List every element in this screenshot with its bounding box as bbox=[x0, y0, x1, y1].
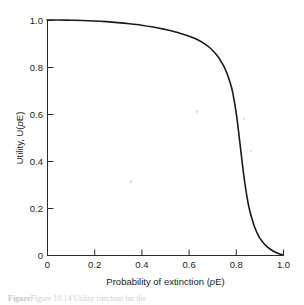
y-axis-ticks bbox=[48, 21, 54, 256]
x-tick-label: 0.8 bbox=[230, 259, 243, 270]
y-tick-label: 0.4 bbox=[30, 156, 43, 167]
utility-curve-chart: 0 0.2 0.4 0.6 0.8 1.0 0 0.2 0.4 0.6 0.8 … bbox=[0, 0, 304, 305]
x-axis-title-pre: Probability of extinction ( bbox=[106, 276, 210, 287]
x-tick-label: 0 bbox=[45, 259, 50, 270]
x-tick-label: 1.0 bbox=[277, 259, 290, 270]
y-tick-label: 0 bbox=[38, 250, 43, 261]
x-axis-title: Probability of extinction (pE) bbox=[106, 276, 224, 287]
y-tick-label: 0.8 bbox=[30, 62, 43, 73]
x-tick-label: 0.2 bbox=[88, 259, 101, 270]
figure-caption-text: Figure 10.14 Utility function for the bbox=[31, 294, 147, 303]
scan-speck bbox=[130, 180, 132, 183]
data-series-utility bbox=[47, 20, 283, 255]
scan-speck bbox=[196, 110, 198, 113]
y-axis-title-pre: Utility, U( bbox=[14, 126, 25, 165]
figure-container: 0 0.2 0.4 0.6 0.8 1.0 0 0.2 0.4 0.6 0.8 … bbox=[0, 0, 304, 305]
figure-caption-prefix: Figure bbox=[8, 294, 31, 303]
x-tick-label: 0.6 bbox=[182, 259, 195, 270]
y-axis-title-post: E) bbox=[14, 112, 25, 122]
x-axis-ticks bbox=[48, 250, 284, 256]
scan-speck bbox=[250, 150, 252, 152]
utility-curve-line bbox=[47, 20, 283, 255]
axis-spines bbox=[47, 20, 284, 256]
x-axis-title-post: E) bbox=[215, 276, 225, 287]
y-tick-labels: 0 0.2 0.4 0.6 0.8 1.0 bbox=[30, 15, 43, 261]
scan-speck bbox=[243, 118, 245, 120]
x-tick-label: 0.4 bbox=[135, 259, 148, 270]
x-tick-labels: 0 0.2 0.4 0.6 0.8 1.0 bbox=[45, 259, 290, 270]
y-axis-title: Utility, U(pE) bbox=[14, 112, 25, 165]
y-tick-label: 0.2 bbox=[30, 203, 43, 214]
figure-caption: FigureFigure 10.14 Utility function for … bbox=[8, 294, 298, 304]
y-tick-label: 0.6 bbox=[30, 109, 43, 120]
y-tick-label: 1.0 bbox=[30, 15, 43, 26]
